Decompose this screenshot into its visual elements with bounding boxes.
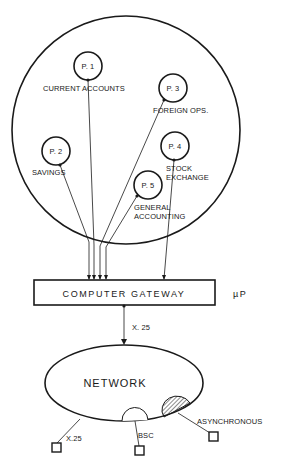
network[interactable]: NETWORK — [45, 345, 203, 421]
process-p2-id: P. 2 — [50, 147, 63, 156]
microprocessor-label: µP — [233, 289, 247, 299]
process-p4-label-1: STOCK — [166, 164, 192, 173]
process-p3-id: P. 3 — [167, 84, 180, 93]
process-p3-label: FOREIGN OPS. — [153, 106, 208, 115]
network-label: NETWORK — [83, 377, 146, 389]
process-p5[interactable]: P. 5 — [134, 171, 162, 199]
process-p5-label-1: GENERAL — [134, 203, 171, 212]
process-p1[interactable]: P. 1 — [74, 52, 102, 80]
process-p2[interactable]: P. 2 — [42, 137, 70, 165]
x25-link-label: X. 25 — [132, 323, 150, 332]
terminal-x25-label: X.25 — [66, 434, 82, 443]
computer-gateway[interactable]: COMPUTER GATEWAY — [34, 280, 215, 305]
x25-link — [121, 304, 127, 345]
process-p1-id: P. 1 — [82, 62, 95, 71]
gateway-label: COMPUTER GATEWAY — [63, 289, 186, 299]
diagram-canvas: P. 1 CURRENT ACCOUNTS P. 3 FOREIGN OPS. … — [0, 0, 281, 465]
bsc-port-icon — [122, 407, 148, 421]
process-p5-id: P. 5 — [142, 181, 155, 190]
terminal-bsc-label: BSC — [138, 431, 154, 440]
process-p5-label-2: ACCOUNTING — [134, 212, 185, 221]
process-p4[interactable]: P. 4 — [161, 132, 189, 160]
process-p1-label: CURRENT ACCOUNTS — [43, 84, 125, 93]
process-p3[interactable]: P. 3 — [159, 74, 187, 102]
process-p4-id: P. 4 — [169, 142, 182, 151]
process-p2-label: SAVINGS — [32, 168, 66, 177]
host-system-circle — [12, 16, 240, 244]
terminal-async-label: ASYNCHRONOUS — [197, 417, 262, 426]
